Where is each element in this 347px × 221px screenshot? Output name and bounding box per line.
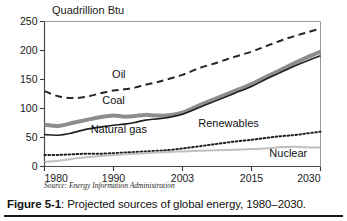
series-lines-group xyxy=(45,28,321,161)
caption-figure-number: Figure 5-1 xyxy=(7,198,61,210)
x-tick-label: 2030 xyxy=(297,172,321,184)
series-label-oil: Oil xyxy=(112,68,125,80)
y-tick-label: 150 xyxy=(20,73,38,85)
series-label-renewables: Renewables xyxy=(198,117,259,129)
figure-container: Quadrillion Btu 050100150200250 19801990… xyxy=(0,0,347,221)
source-attribution: Source: Energy Information Administratio… xyxy=(44,181,175,190)
figure-caption: Figure 5-1: Projected sources of global … xyxy=(7,198,306,210)
x-tick-label: 2015 xyxy=(240,172,264,184)
series-line-oil xyxy=(45,28,321,98)
series-line-natural-gas xyxy=(45,56,321,136)
y-axis-title: Quadrillion Btu xyxy=(52,4,124,16)
figure-caption-bar: Figure 5-1: Projected sources of global … xyxy=(0,194,347,221)
series-label-natural-gas: Natural gas xyxy=(91,123,148,135)
y-tick-label: 0 xyxy=(32,160,38,172)
series-label-nuclear: Nuclear xyxy=(269,147,307,159)
series-label-coal: Coal xyxy=(102,94,125,106)
caption-divider xyxy=(4,215,343,217)
source-note-group: Source: Energy Information Administratio… xyxy=(44,181,175,190)
y-tick-label: 100 xyxy=(20,102,38,114)
plot-frame xyxy=(45,22,321,167)
y-axis-ticks-group: 050100150200250 xyxy=(20,15,45,172)
series-labels-group: OilCoalNatural gasRenewablesNuclear xyxy=(91,68,308,158)
y-tick-label: 200 xyxy=(20,44,38,56)
y-tick-label: 50 xyxy=(26,131,38,143)
chart-plot-region: Quadrillion Btu 050100150200250 19801990… xyxy=(0,0,347,192)
y-tick-label: 250 xyxy=(20,15,38,27)
caption-body: Projected sources of global energy, 1980… xyxy=(67,198,306,210)
energy-line-chart: Quadrillion Btu 050100150200250 19801990… xyxy=(0,0,347,192)
y-axis-title-group: Quadrillion Btu xyxy=(52,4,124,16)
